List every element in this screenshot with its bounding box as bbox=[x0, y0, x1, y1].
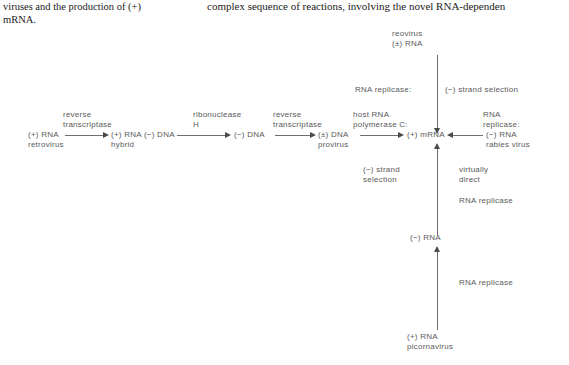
arrowhead-hybrid-to-minus-dna bbox=[225, 132, 231, 138]
edge-hybrid-to-minus-dna bbox=[177, 135, 228, 136]
arrowhead-rabies-to-mrna bbox=[447, 132, 453, 138]
label-ribonuclease-h-line-2: H bbox=[193, 120, 241, 130]
label-rna-replicase-right-line-2: replicase: bbox=[483, 120, 520, 130]
arrowhead-minus-rna-to-mrna bbox=[434, 143, 440, 149]
edge-provirus-to-mrna bbox=[360, 135, 401, 136]
label-minus-strand-selection-top-text: (−) strand selection bbox=[445, 85, 518, 94]
caption-left-line-1: viruses and the production of (+) bbox=[3, 1, 141, 14]
node-minus-dna: (−) DNA bbox=[234, 130, 265, 140]
node-mrna-line-1: (+) mRNA bbox=[407, 130, 445, 140]
label-reverse-transcriptase-1-line-2: transcriptase bbox=[63, 120, 112, 130]
node-mrna: (+) mRNA bbox=[407, 130, 445, 140]
node-minus-dna-line-1: (−) DNA bbox=[234, 130, 265, 140]
node-hybrid-line-2: hybrid bbox=[111, 140, 175, 150]
label-ribonuclease-h: ribonuclease H bbox=[193, 110, 241, 129]
label-rna-replicase-lower-text: RNA replicase bbox=[459, 278, 513, 287]
label-virtually-direct: virtually direct bbox=[459, 165, 488, 184]
label-reverse-transcriptase-2: reverse transcriptase bbox=[273, 110, 322, 129]
node-rabies: (−) RNA rabies virus bbox=[486, 130, 530, 149]
node-hybrid: (+) RNA (−) DNA hybrid bbox=[111, 130, 175, 149]
label-minus-strand-selection-mid-line-2: selection bbox=[363, 175, 400, 185]
node-retrovirus-line-1: (+) RNA bbox=[28, 130, 64, 140]
node-provirus-line-2: provirus bbox=[318, 140, 349, 150]
label-minus-strand-selection-top: (−) strand selection bbox=[445, 85, 518, 95]
edge-picornavirus-to-minus-rna bbox=[437, 252, 438, 330]
edge-minus-rna-to-mrna bbox=[437, 147, 438, 235]
node-picornavirus-line-2: picornavirus bbox=[407, 342, 453, 352]
edge-minus-dna-to-provirus bbox=[275, 135, 313, 136]
edge-retrovirus-to-hybrid bbox=[65, 135, 106, 136]
node-retrovirus: (+) RNA retrovirus bbox=[28, 130, 64, 149]
label-minus-strand-selection-mid-line-1: (−) strand bbox=[363, 165, 400, 175]
label-rna-replicase-top-text: RNA replicase: bbox=[355, 85, 411, 94]
caption-right-line-1: complex sequence of reactions, involving… bbox=[207, 0, 505, 13]
label-host-rna-polymerase-line-2: polymerase C: bbox=[353, 120, 408, 130]
label-host-rna-polymerase: host RNA polymerase C: bbox=[353, 110, 408, 129]
label-rna-replicase-upper-text: RNA replicase bbox=[459, 196, 513, 205]
node-picornavirus-line-1: (+) RNA bbox=[407, 332, 453, 342]
edge-reovirus-to-mrna bbox=[437, 55, 438, 131]
label-rna-replicase-top: RNA replicase: bbox=[355, 85, 411, 95]
edge-rabies-to-mrna bbox=[452, 135, 483, 136]
label-rna-replicase-lower: RNA replicase bbox=[459, 278, 513, 288]
label-ribonuclease-h-line-1: ribonuclease bbox=[193, 110, 241, 120]
caption-right: complex sequence of reactions, involving… bbox=[207, 0, 505, 13]
arrowhead-retrovirus-to-hybrid bbox=[103, 132, 109, 138]
node-minus-rna: (−) RNA bbox=[410, 233, 441, 243]
node-hybrid-line-1: (+) RNA (−) DNA bbox=[111, 130, 175, 140]
arrowhead-minus-dna-to-provirus bbox=[310, 132, 316, 138]
label-rna-replicase-right-line-1: RNA bbox=[483, 110, 520, 120]
label-reverse-transcriptase-2-line-2: transcriptase bbox=[273, 120, 322, 130]
label-reverse-transcriptase-1-line-1: reverse bbox=[63, 110, 112, 120]
node-reovirus-line-2: (±) RNA bbox=[392, 39, 423, 49]
label-host-rna-polymerase-line-1: host RNA bbox=[353, 110, 408, 120]
node-minus-rna-line-1: (−) RNA bbox=[410, 233, 441, 243]
label-reverse-transcriptase-2-line-1: reverse bbox=[273, 110, 322, 120]
arrowhead-picornavirus-to-minus-rna bbox=[434, 246, 440, 252]
node-provirus: (±) DNA provirus bbox=[318, 130, 349, 149]
node-reovirus: reovirus (±) RNA bbox=[392, 29, 423, 48]
caption-left: viruses and the production of (+) mRNA. bbox=[3, 1, 141, 26]
caption-left-line-2: mRNA. bbox=[3, 14, 141, 27]
label-virtually-direct-line-1: virtually bbox=[459, 165, 488, 175]
node-picornavirus: (+) RNA picornavirus bbox=[407, 332, 453, 351]
label-rna-replicase-upper: RNA replicase bbox=[459, 196, 513, 206]
label-reverse-transcriptase-1: reverse transcriptase bbox=[63, 110, 112, 129]
node-provirus-line-1: (±) DNA bbox=[318, 130, 349, 140]
node-reovirus-line-1: reovirus bbox=[392, 29, 423, 39]
node-retrovirus-line-2: retrovirus bbox=[28, 140, 64, 150]
node-rabies-line-1: (−) RNA bbox=[486, 130, 530, 140]
label-rna-replicase-right: RNA replicase: bbox=[483, 110, 520, 129]
label-virtually-direct-line-2: direct bbox=[459, 175, 488, 185]
figure-page: viruses and the production of (+) mRNA. … bbox=[0, 0, 569, 365]
label-minus-strand-selection-mid: (−) strand selection bbox=[363, 165, 400, 184]
arrowhead-provirus-to-mrna bbox=[398, 132, 404, 138]
node-rabies-line-2: rabies virus bbox=[486, 140, 530, 150]
